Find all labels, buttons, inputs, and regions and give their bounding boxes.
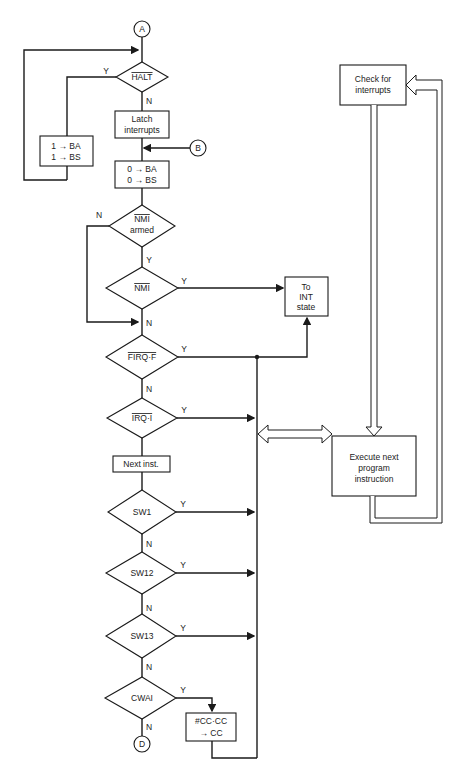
set-ba-bs-box: 1 → BA 1 → BS: [40, 136, 93, 166]
svg-text:Execute next: Execute next: [349, 452, 399, 462]
sw1-no-label: N: [146, 539, 152, 549]
svg-text:NMI: NMI: [134, 214, 150, 224]
cwai-yes-label: Y: [180, 685, 186, 695]
check-interrupts-box: Check for interrupts: [340, 65, 406, 105]
to-int-state-box: To INT state: [285, 277, 328, 316]
svg-text:instruction: instruction: [355, 474, 394, 484]
halt-no-label: N: [146, 96, 152, 106]
svg-text:program: program: [358, 463, 390, 473]
execute-instruction-box: Execute next program instruction: [332, 436, 416, 496]
svg-text:A: A: [139, 24, 145, 34]
flowchart: A HALT Y N 1 → BA 1 → BS Latch interrupt…: [0, 0, 463, 774]
next-inst-box: Next inst.: [113, 456, 170, 472]
svg-text:0 → BS: 0 → BS: [127, 175, 157, 185]
halt-yes-line: [67, 77, 116, 136]
svg-text:state: state: [297, 302, 316, 312]
nmi-yes-label: Y: [181, 276, 187, 286]
connector-a: A: [134, 21, 150, 37]
svg-text:SW13: SW13: [130, 631, 153, 641]
sw1-decision: SW1: [108, 490, 176, 534]
svg-text:1 → BA: 1 → BA: [51, 141, 81, 151]
svg-text:B: B: [195, 143, 201, 153]
svg-text:NMI: NMI: [134, 283, 150, 293]
connector-d: D: [134, 736, 150, 752]
check-to-execute-arrow: [366, 105, 382, 436]
svg-text:Check for: Check for: [355, 74, 392, 84]
svg-text:interrupts: interrupts: [355, 85, 390, 95]
cwai-no-label: N: [146, 722, 152, 732]
sw12-decision: SW12: [106, 552, 176, 594]
firq-yes-label: Y: [181, 344, 187, 354]
irq-yes-label: Y: [181, 405, 187, 415]
halt-decision: HALT: [116, 62, 168, 92]
svg-text:CWAI: CWAI: [131, 693, 153, 703]
svg-text:Latch: Latch: [132, 114, 153, 124]
svg-text:FIRQ·F: FIRQ·F: [128, 352, 156, 362]
cc-mask-box: #CC·CC → CC: [186, 713, 236, 741]
svg-text:To: To: [302, 282, 311, 292]
svg-text:HALT: HALT: [131, 72, 152, 82]
cwai-yes-line: [176, 698, 212, 711]
connector-b: B: [190, 140, 206, 156]
to-int-line: [257, 318, 307, 357]
svg-text:Next inst.: Next inst.: [123, 459, 158, 469]
nmi-no-label: N: [146, 318, 152, 328]
cwai-decision: CWAI: [105, 677, 176, 719]
irq-decision: IRQ·I: [107, 398, 177, 438]
firq-no-label: N: [146, 384, 152, 394]
sw13-no-label: N: [146, 662, 152, 672]
firq-decision: FIRQ·F: [106, 335, 178, 379]
sw1-yes-label: Y: [180, 499, 186, 509]
svg-text:armed: armed: [130, 225, 154, 235]
sw13-yes-label: Y: [180, 623, 186, 633]
svg-text:0 → BA: 0 → BA: [127, 164, 157, 174]
sw12-no-label: N: [146, 603, 152, 613]
nmi-armed-yes-label: Y: [146, 255, 152, 265]
cc-return-line: [212, 741, 257, 758]
halt-yes-label: Y: [103, 66, 109, 76]
nmi-armed-decision: NMI armed: [109, 205, 175, 247]
clear-ba-bs-box: 0 → BA 0 → BS: [115, 161, 169, 188]
sw12-yes-label: Y: [180, 560, 186, 570]
nmi-armed-no-label: N: [96, 210, 102, 220]
svg-text:SW1: SW1: [133, 507, 152, 517]
svg-text:INT: INT: [299, 292, 313, 302]
svg-text:IRQ·I: IRQ·I: [132, 413, 152, 423]
svg-text:1 → BS: 1 → BS: [51, 152, 81, 162]
svg-text:D: D: [139, 739, 145, 749]
svg-text:SW12: SW12: [130, 568, 153, 578]
double-arrow-bus-execute: [258, 425, 332, 443]
svg-text:interrupts: interrupts: [124, 125, 159, 135]
sw13-decision: SW13: [106, 614, 176, 658]
latch-interrupts-box: Latch interrupts: [115, 111, 169, 138]
svg-text:#CC·CC: #CC·CC: [195, 716, 227, 726]
svg-text:→ CC: → CC: [199, 728, 222, 738]
nmi-decision: NMI: [106, 267, 178, 309]
